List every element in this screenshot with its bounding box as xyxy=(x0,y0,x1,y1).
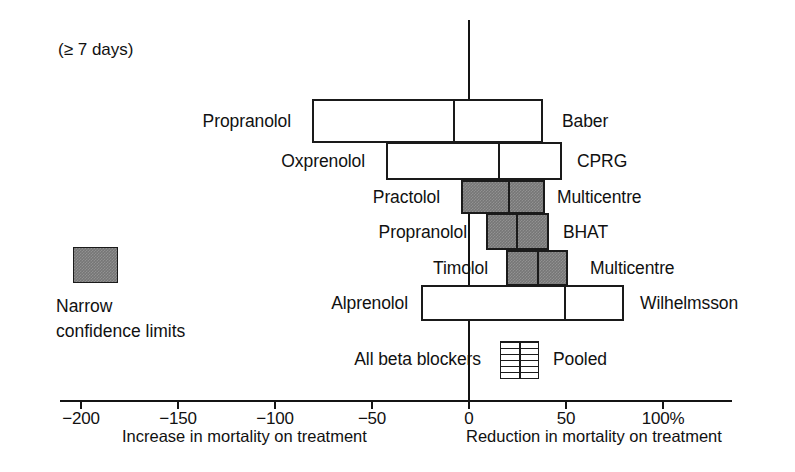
study-label: CPRG xyxy=(577,151,627,172)
confidence-interval-bar xyxy=(386,142,563,180)
x-axis-line xyxy=(60,400,732,402)
drug-label: Propranolol xyxy=(203,111,291,132)
x-axis-tick-label: −150 xyxy=(159,409,197,429)
drug-label: Timolol xyxy=(433,258,488,279)
point-estimate-line xyxy=(453,99,455,143)
drug-label: Practolol xyxy=(373,187,440,208)
confidence-interval-bar xyxy=(312,99,543,143)
confidence-interval-bar xyxy=(461,180,544,214)
legend-label-line1: Narrow xyxy=(56,296,112,317)
point-estimate-line xyxy=(564,285,566,321)
pooled-row-label: All beta blockers xyxy=(354,349,481,370)
point-estimate-line xyxy=(537,250,539,286)
x-axis-tick-label: −100 xyxy=(256,409,294,429)
forest-plot-figure: (≥ 7 days) PropranololBaberOxprenololCPR… xyxy=(0,0,795,472)
pooled-study-label: Pooled xyxy=(553,349,607,370)
point-estimate-line xyxy=(516,213,518,250)
study-label: Wilhelmsson xyxy=(640,293,738,314)
x-axis-tick-label: −50 xyxy=(358,409,386,429)
point-estimate-line xyxy=(508,180,510,214)
x-axis-left-caption: Increase in mortality on treatment xyxy=(122,427,367,446)
point-estimate-line xyxy=(498,142,500,180)
narrow-ci-legend-swatch xyxy=(73,247,118,283)
study-label: Baber xyxy=(562,111,608,132)
study-label: Multicentre xyxy=(590,258,675,279)
plot-area: (≥ 7 days) PropranololBaberOxprenololCPR… xyxy=(0,0,795,472)
study-label: Multicentre xyxy=(557,187,642,208)
drug-label: Alprenolol xyxy=(331,293,408,314)
drug-label: Propranolol xyxy=(379,221,467,242)
legend-label-line2: confidence limits xyxy=(56,321,185,342)
x-axis-right-caption: Reduction in mortality on treatment xyxy=(466,427,722,446)
x-axis-tick-label: −200 xyxy=(62,409,100,429)
study-label: BHAT xyxy=(563,221,608,242)
x-axis-tick-label: 50 xyxy=(557,409,576,429)
duration-annotation: (≥ 7 days) xyxy=(58,40,133,60)
drug-label: Oxprenolol xyxy=(281,151,365,172)
x-axis-tick-label: 100% xyxy=(642,409,685,429)
confidence-interval-bar xyxy=(421,285,625,321)
x-axis-tick-label: 0 xyxy=(464,409,473,429)
pooled-point-estimate-line xyxy=(519,341,521,379)
